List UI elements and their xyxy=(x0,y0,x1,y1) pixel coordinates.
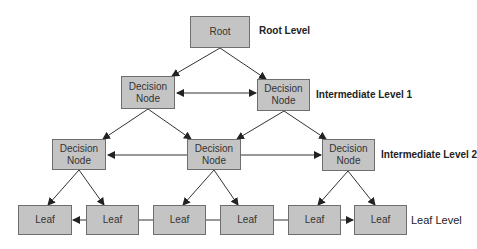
decision-node-l2-left: DecisionNode xyxy=(52,139,106,170)
leaf-node-4: Leaf xyxy=(220,205,274,235)
leaf-node-6: Leaf xyxy=(354,205,407,235)
edge-root-d1-right xyxy=(220,48,266,79)
decision-node-l1-left: DecisionNode xyxy=(121,76,175,109)
leaf-node-2: Leaf xyxy=(86,205,139,235)
decision-node-l2-right: DecisionNode xyxy=(322,139,375,171)
root-node: Root xyxy=(190,16,250,48)
decision-node-l1-right: DecisionNode xyxy=(257,79,310,111)
leaf-node-5: Leaf xyxy=(288,205,341,235)
intermediate-level-2-label: Intermediate Level 2 xyxy=(381,149,477,160)
decision-node-l2-mid: DecisionNode xyxy=(187,139,241,170)
intermediate-level-1-label: Intermediate Level 1 xyxy=(316,89,412,100)
root-level-label: Root Level xyxy=(259,25,310,36)
leaf-node-1: Leaf xyxy=(18,205,72,235)
edge-root-d1-left xyxy=(172,48,220,76)
leaf-level-label: Leaf Level xyxy=(411,214,462,226)
leaf-node-3: Leaf xyxy=(153,205,206,235)
